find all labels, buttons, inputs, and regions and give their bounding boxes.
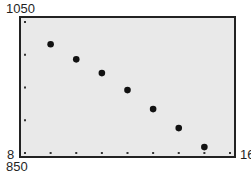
y-tick-mark — [24, 152, 26, 154]
x-max-label: 16 — [240, 148, 251, 161]
y-tick-mark — [24, 87, 26, 89]
data-point — [175, 125, 182, 132]
y-tick-mark — [24, 119, 26, 121]
x-tick-mark — [75, 152, 77, 154]
data-point — [73, 56, 80, 63]
data-point — [150, 106, 157, 113]
x-tick-mark — [101, 152, 103, 154]
scatter-plot — [21, 18, 234, 156]
data-points — [47, 41, 207, 150]
x-tick-mark — [50, 152, 52, 154]
data-point — [47, 41, 54, 48]
x-tick-mark — [178, 152, 180, 154]
data-point — [201, 144, 208, 151]
y-tick-mark — [24, 54, 26, 56]
data-point — [99, 70, 106, 77]
x-tick-mark — [127, 152, 129, 154]
y-tick-mark — [24, 21, 26, 23]
y-min-label: 850 — [6, 160, 28, 173]
data-point — [124, 87, 131, 94]
x-tick-mark — [152, 152, 154, 154]
plot-area — [19, 16, 236, 158]
y-max-label: 1050 — [6, 2, 35, 15]
x-tick-mark — [203, 152, 205, 154]
x-tick-mark — [229, 152, 231, 154]
